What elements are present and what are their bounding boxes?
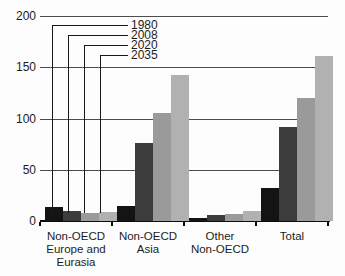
legend-callout-line-2020 <box>84 45 128 46</box>
legend-callout-line-2035-drop <box>100 55 101 213</box>
bar-total-1980 <box>261 188 279 221</box>
bar-non-oecd-europe-and-eurasia-2008 <box>63 211 81 221</box>
gridline-200 <box>40 16 328 17</box>
legend-entry-2035: 2035 <box>131 49 158 61</box>
y-tick-label-0: 0 <box>6 214 36 228</box>
x-category-label-line: Non-OECD <box>170 243 270 256</box>
bar-non-oecd-europe-and-eurasia-1980 <box>45 207 63 221</box>
bar-non-oecd-europe-and-eurasia-2035 <box>99 212 117 221</box>
x-axis-tick <box>39 222 41 226</box>
x-category-label-line: Eurasia <box>26 256 126 269</box>
bar-other-non-oecd-1980 <box>189 218 207 221</box>
bar-other-non-oecd-2008 <box>207 215 225 221</box>
bar-non-oecd-asia-2035 <box>171 75 189 221</box>
x-category-label-line: Total <box>242 230 342 243</box>
x-category-label-total: Total <box>242 230 342 243</box>
bar-total-2008 <box>279 127 297 221</box>
bar-non-oecd-asia-1980 <box>117 206 135 221</box>
bar-total-2035 <box>315 56 333 221</box>
bar-non-oecd-europe-and-eurasia-2020 <box>81 213 99 221</box>
x-axis-tick <box>183 222 185 226</box>
bar-non-oecd-asia-2020 <box>153 113 171 221</box>
bar-non-oecd-asia-2008 <box>135 143 153 221</box>
y-tick-label-150: 150 <box>6 60 36 74</box>
legend-callout-line-1980 <box>52 25 128 26</box>
bar-chart-figure: 050100150200Non-OECDEurope andEurasiaNon… <box>0 0 345 276</box>
legend-callout-line-2008 <box>68 35 128 36</box>
legend-callout-line-2008-drop <box>68 35 69 213</box>
legend-callout-line-2035 <box>100 55 128 56</box>
bar-total-2020 <box>297 98 315 221</box>
x-axis-tick <box>255 222 257 226</box>
y-tick-label-200: 200 <box>6 9 36 23</box>
legend-callout-line-2020-drop <box>84 45 85 213</box>
y-tick-label-50: 50 <box>6 163 36 177</box>
y-tick-label-100: 100 <box>6 112 36 126</box>
bar-other-non-oecd-2020 <box>225 214 243 221</box>
legend-callout-line-1980-drop <box>52 25 53 213</box>
bar-other-non-oecd-2035 <box>243 211 261 221</box>
x-axis-tick <box>111 222 113 226</box>
x-axis-tick <box>327 222 329 226</box>
